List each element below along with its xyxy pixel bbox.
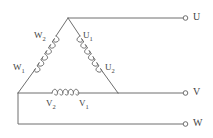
- coil-label-u1-sub: 1: [90, 35, 93, 42]
- left-lower-conductor: [18, 72, 33, 93]
- coil-v2-v1-winding: [52, 89, 79, 95]
- coil-label-v1-sub: 1: [86, 103, 89, 110]
- terminal-label-v: V: [193, 87, 200, 97]
- delta-connection-diagram: W2 U1 W1 U2 V2 V1 U V W: [0, 0, 213, 138]
- terminal-v-node[interactable]: [183, 91, 188, 96]
- terminal-w-node[interactable]: [183, 122, 188, 127]
- coil-label-v2-sub: 2: [53, 103, 56, 110]
- coil-label-v2: V2: [46, 99, 56, 110]
- right-lower-conductor: [103, 72, 118, 93]
- coil-label-w2: W2: [34, 31, 46, 42]
- coil-label-u2-sub: 2: [112, 67, 115, 74]
- coil-label-w2-sub: 2: [43, 35, 46, 42]
- coil-label-w1: W1: [13, 63, 25, 74]
- coil-label-u2: U2: [105, 63, 115, 74]
- terminal-u-node[interactable]: [183, 16, 188, 21]
- left-winding-conductor: [56, 18, 68, 36]
- coil-label-u1: U1: [83, 31, 93, 42]
- terminal-label-u: U: [193, 12, 200, 22]
- right-winding-conductor: [68, 18, 80, 36]
- coil-label-w1-main: W: [13, 62, 22, 72]
- coil-label-v1: V1: [79, 99, 89, 110]
- terminal-label-w: W: [193, 118, 202, 128]
- lead-to-terminal-w: [18, 93, 183, 124]
- coil-label-w2-main: W: [34, 30, 43, 40]
- coil-label-w1-sub: 1: [22, 67, 25, 74]
